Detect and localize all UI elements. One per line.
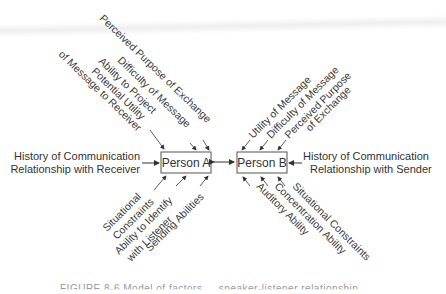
arrow [154,176,166,190]
a-bottom-factors: Situational Constraints Ability to Ident… [100,176,208,264]
arrow [200,176,208,186]
communication-model-diagram: Person A Person B History of Communicati… [0,0,446,294]
person-b-label: Person B [237,156,286,170]
diagram-canvas: Person A Person B History of Communicati… [0,0,446,294]
b-top-factors: Utility of Message Difficulty of Message… [242,63,353,150]
left-history-line1: History of Communication [14,150,140,162]
arrow [190,143,196,150]
arrow [260,140,268,150]
right-history-line2: Relationship with Sender [310,163,432,175]
arrow [278,140,286,150]
arrow [176,176,186,186]
arrow [242,140,250,150]
b-bottom-factors: Auditory Ability Concentration Ability S… [243,177,373,263]
a-top-factors: Perceived Purpose of Exchange Difficulty… [57,12,214,150]
person-a-label: Person A [162,156,211,170]
right-history-line1: History of Communication [303,150,429,162]
arrow [203,140,209,150]
arrow [243,177,250,186]
left-history-line2: Relationship with Receiver [10,163,140,175]
arrow [150,130,164,149]
